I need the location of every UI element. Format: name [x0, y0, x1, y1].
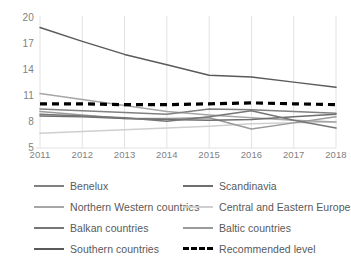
legend-item-central-and-eastern-europe[interactable]: Central and Eastern Europe [175, 196, 351, 217]
y-axis-tick-label: 14 [8, 65, 34, 75]
y-axis-tick-label: 17 [8, 39, 34, 49]
x-axis-tick-label: 2012 [62, 150, 102, 160]
legend-label: Southern countries [70, 243, 159, 255]
legend-label: Scandinavia [219, 180, 277, 192]
legend-item-balkan-countries[interactable]: Balkan countries [0, 217, 175, 238]
legend-swatch-icon [183, 185, 213, 187]
legend-item-recommended-level[interactable]: Recommended level [175, 238, 351, 259]
series-line-southern-countries [40, 28, 336, 88]
legend-swatch-icon [183, 206, 213, 208]
legend-swatch-icon [34, 227, 64, 229]
x-axis-tick-label: 2013 [105, 150, 145, 160]
x-axis-tick-label: 2014 [147, 150, 187, 160]
x-axis-tick-label: 2017 [274, 150, 314, 160]
legend-swatch-icon [34, 206, 64, 208]
x-axis-tick-label: 2011 [20, 150, 60, 160]
legend-row: BeneluxScandinavia [0, 175, 351, 196]
legend-label: Recommended level [219, 243, 316, 255]
legend-row: Northern Western countriesCentral and Ea… [0, 196, 351, 217]
plot-canvas [0, 0, 351, 168]
legend-swatch-icon [183, 227, 213, 229]
x-axis-tick-label: 2015 [189, 150, 229, 160]
legend-item-southern-countries[interactable]: Southern countries [0, 238, 175, 259]
x-axis-tick-label: 2018 [316, 150, 351, 160]
y-axis-tick-label: 11 [8, 91, 34, 101]
plot-area: 2017141185 20112012201320142015201620172… [0, 0, 351, 168]
chart-svg [0, 0, 351, 168]
y-axis-tick-label: 20 [8, 13, 34, 23]
x-axis-tick-label: 2016 [231, 150, 271, 160]
chart-legend: BeneluxScandinaviaNorthern Western count… [0, 172, 351, 259]
line-chart: 2017141185 20112012201320142015201620172… [0, 0, 351, 259]
legend-row: Balkan countriesBaltic countries [0, 217, 351, 238]
x-axis-labels: 20112012201320142015201620172018 [0, 150, 351, 166]
legend-item-northern-western-countries[interactable]: Northern Western countries [0, 196, 175, 217]
y-axis-labels: 2017141185 [4, 0, 34, 168]
legend-item-baltic-countries[interactable]: Baltic countries [175, 217, 351, 238]
legend-swatch-icon [183, 247, 213, 250]
y-axis-tick-label: 8 [8, 117, 34, 127]
legend-item-scandinavia[interactable]: Scandinavia [175, 175, 351, 196]
series-line-recommended-level [40, 103, 336, 105]
legend-item-benelux[interactable]: Benelux [0, 175, 175, 196]
legend-swatch-icon [34, 248, 64, 250]
legend-label: Benelux [70, 180, 108, 192]
legend-label: Central and Eastern Europe [219, 201, 350, 213]
legend-label: Balkan countries [70, 222, 148, 234]
legend-label: Baltic countries [219, 222, 291, 234]
legend-row: Southern countriesRecommended level [0, 238, 351, 259]
legend-swatch-icon [34, 185, 64, 187]
